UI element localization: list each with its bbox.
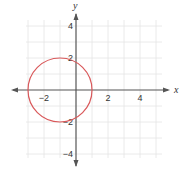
x-tick-label: 2 — [105, 93, 110, 103]
x-tick-label: 4 — [137, 93, 142, 103]
grid — [26, 20, 162, 158]
y-axis-top-arrow-icon — [74, 13, 79, 20]
y-tick-label: 4 — [68, 21, 73, 31]
x-axis-left-arrow-icon — [11, 88, 18, 93]
axes: x y — [11, 0, 179, 167]
x-tick-label: −2 — [39, 93, 49, 103]
x-axis-label: x — [173, 84, 179, 95]
y-tick-label: 2 — [68, 53, 73, 63]
y-axis-label: y — [72, 0, 78, 11]
y-axis-bottom-arrow-icon — [74, 160, 79, 167]
x-axis-right-arrow-icon — [163, 88, 170, 93]
coordinate-plane: x y −22442−2−4 — [0, 0, 187, 173]
y-tick-label: −4 — [63, 149, 73, 159]
